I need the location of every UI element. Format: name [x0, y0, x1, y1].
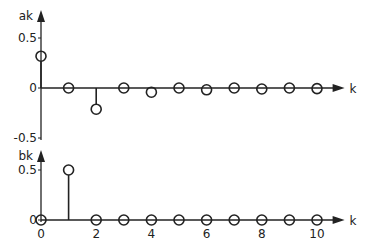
y-axis-arrow-icon — [37, 150, 45, 162]
x-axis-arrow-icon — [333, 84, 345, 92]
x-tick-label: 4 — [148, 227, 156, 241]
y-tick-label: 0.5 — [18, 31, 37, 45]
y-tick-label: 0 — [29, 81, 37, 95]
x-axis-label: k — [350, 82, 357, 96]
stem-marker — [91, 104, 101, 114]
x-tick-label: 10 — [309, 227, 324, 241]
stem-marker — [64, 165, 74, 175]
stem-charts: akk0.50-0.5 bkk0.500246810 — [0, 0, 365, 250]
x-tick-label: 6 — [203, 227, 211, 241]
x-axis-label: k — [350, 214, 357, 228]
y-tick-label: -0.5 — [14, 131, 37, 145]
x-tick-label: 8 — [258, 227, 266, 241]
ak-plot: akk0.50-0.5 — [14, 9, 357, 145]
bk-plot: bkk0.500246810 — [18, 149, 357, 241]
y-tick-label: 0.5 — [18, 163, 37, 177]
stem-marker — [257, 84, 267, 94]
x-axis-arrow-icon — [333, 216, 345, 224]
x-tick-label: 0 — [37, 227, 45, 241]
stem-marker — [202, 85, 212, 95]
x-tick-label: 2 — [92, 227, 100, 241]
stem-marker — [146, 87, 156, 97]
y-axis-label: ak — [19, 9, 33, 23]
y-axis-arrow-icon — [37, 10, 45, 22]
y-axis-label: bk — [18, 149, 33, 163]
